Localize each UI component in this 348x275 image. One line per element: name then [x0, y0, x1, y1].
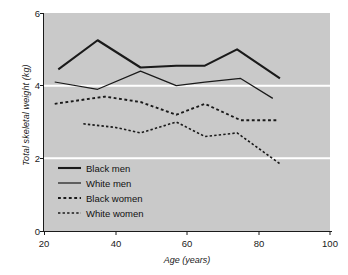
- y-tick-label-0: 0: [18, 226, 40, 237]
- legend-label-white-women: White women: [86, 208, 144, 219]
- x-tick-label-60: 60: [172, 238, 202, 249]
- figure: Total skeletal weight (kg) 6 4 2 0 20 40…: [0, 0, 348, 275]
- y-tick-label-2: 2: [18, 153, 40, 164]
- x-tick-label-100: 100: [315, 238, 345, 249]
- y-tick-label-6: 6: [18, 8, 40, 19]
- legend-label-black-women: Black women: [86, 193, 143, 204]
- x-tick-label-80: 80: [244, 238, 274, 249]
- x-axis-title: Age (years): [44, 255, 330, 265]
- x-tick-label-20: 20: [29, 238, 59, 249]
- x-tick-label-40: 40: [101, 238, 131, 249]
- y-tick-label-4: 4: [18, 80, 40, 91]
- legend-label-black-men: Black men: [86, 163, 130, 174]
- legend-label-white-men: White men: [86, 178, 131, 189]
- y-axis-title: Total skeletal weight (kg): [21, 40, 31, 190]
